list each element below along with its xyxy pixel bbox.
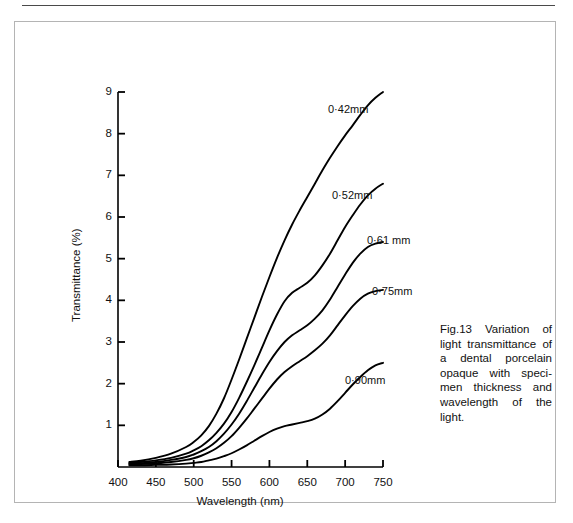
series-line-2 <box>129 184 383 463</box>
curve-label-2: 0·52mm <box>332 189 372 201</box>
figure-frame: Transmittance (%) Wavelength (nm) 123456… <box>14 21 556 503</box>
curve-label-3: 0·61 mm <box>367 234 410 246</box>
y-axis-title: Transmittance (%) <box>70 228 82 322</box>
y-tick-label: 5 <box>90 253 112 264</box>
curve-label-5: 0·90mm <box>345 374 385 386</box>
x-tick-label: 500 <box>174 477 214 488</box>
figure-caption: Fig.13 Variation of light transmittance … <box>440 322 552 424</box>
y-tick-label: 8 <box>90 128 112 139</box>
x-tick-label: 750 <box>363 477 403 488</box>
x-tick-label: 650 <box>287 477 327 488</box>
x-tick-label: 700 <box>325 477 365 488</box>
x-tick-label: 550 <box>212 477 252 488</box>
figure-page: Transmittance (%) Wavelength (nm) 123456… <box>0 0 573 523</box>
x-tick-label: 450 <box>136 477 176 488</box>
y-tick-label: 2 <box>90 378 112 389</box>
x-axis-title: Wavelength (nm) <box>115 495 365 507</box>
y-tick-label: 3 <box>90 336 112 347</box>
header-rule <box>22 5 555 6</box>
y-tick-label: 6 <box>90 211 112 222</box>
y-tick-label: 4 <box>90 294 112 305</box>
y-tick-label: 9 <box>90 86 112 97</box>
curve-label-1: 0·42mm <box>328 103 368 115</box>
x-tick-label: 600 <box>249 477 289 488</box>
series-line-3 <box>129 242 383 464</box>
chart-container: Transmittance (%) Wavelength (nm) 123456… <box>15 22 435 504</box>
x-tick-label: 400 <box>98 477 138 488</box>
y-tick-label: 7 <box>90 169 112 180</box>
y-tick-label: 1 <box>90 419 112 430</box>
curve-label-4: 0·75mm <box>372 285 412 297</box>
